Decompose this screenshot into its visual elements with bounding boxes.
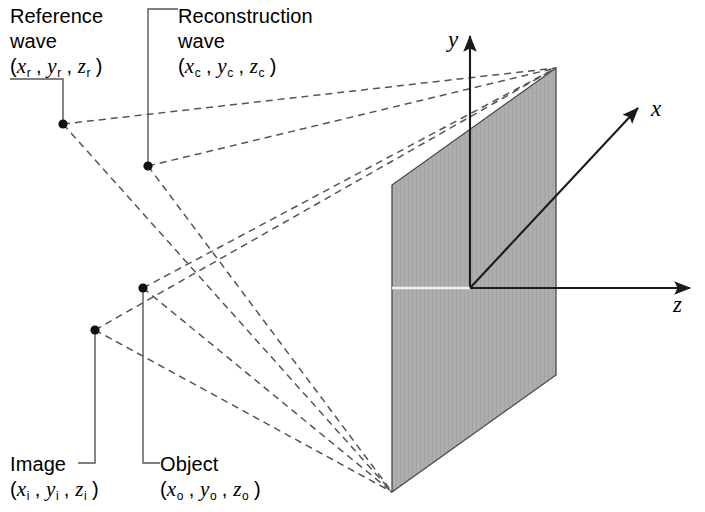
axis-label-y: y — [448, 27, 458, 53]
coord-y-sub: c — [227, 66, 233, 80]
label-image-line1: Image — [10, 452, 99, 477]
leader-reconstruction — [148, 9, 178, 166]
coord-x-sub: r — [27, 66, 31, 80]
paren-close: ) — [270, 55, 277, 77]
label-reference-coords: (xr , yr , zr ) — [10, 54, 103, 82]
coord-x: x — [17, 54, 26, 78]
ray-reconstruction-bottom — [148, 166, 392, 492]
coord-z-sub: r — [87, 66, 91, 80]
source-point-reconstruction — [143, 161, 152, 170]
source-point-image — [90, 325, 99, 334]
label-object-coords: (xo , yo , zo ) — [160, 477, 261, 505]
label-image: Image (xi , yi , zi ) — [10, 452, 99, 505]
coord-x: x — [17, 477, 26, 501]
paren-open: ( — [10, 55, 17, 77]
label-reconstruction-coords: (xc , yc , zc ) — [178, 54, 313, 82]
paren-open: ( — [178, 55, 185, 77]
coord-y-sub: r — [57, 66, 61, 80]
coord-z: z — [75, 477, 83, 501]
coord-x: x — [185, 54, 194, 78]
coord-y: y — [200, 477, 209, 501]
coord-x-sub: o — [177, 489, 184, 503]
coord-z-sub: i — [84, 489, 87, 503]
coord-y: y — [47, 54, 56, 78]
leader-reference — [10, 79, 63, 124]
coord-y-sub: i — [56, 489, 59, 503]
label-reference-line1: Reference — [10, 4, 103, 29]
diagram-canvas — [0, 0, 705, 512]
label-object: Object (xo , yo , zo ) — [160, 452, 261, 505]
source-point-object — [138, 283, 147, 292]
paren-close: ) — [92, 478, 99, 500]
label-image-coords: (xi , yi , zi ) — [10, 477, 99, 505]
source-point-reference — [58, 119, 67, 128]
holography-diagram: Reference wave (xr , yr , zr ) Reconstru… — [0, 0, 705, 512]
coord-z-sub: c — [259, 66, 265, 80]
leader-image — [78, 330, 95, 463]
coord-y: y — [217, 54, 226, 78]
coord-x-sub: i — [27, 489, 30, 503]
hologram-plate — [392, 68, 556, 492]
label-reconstruction-line1: Reconstruction — [178, 4, 313, 29]
axis-label-z: z — [673, 292, 682, 318]
coord-z: z — [250, 54, 258, 78]
coord-x-sub: c — [195, 66, 201, 80]
coord-y-sub: o — [210, 489, 217, 503]
paren-close: ) — [254, 478, 261, 500]
axis-label-x: x — [651, 96, 661, 122]
label-object-line1: Object — [160, 452, 261, 477]
paren-open: ( — [10, 478, 17, 500]
coord-z: z — [233, 477, 241, 501]
coord-x: x — [167, 477, 176, 501]
coord-z: z — [78, 54, 86, 78]
label-reconstruction-wave: Reconstruction wave (xc , yc , zc ) — [178, 4, 313, 82]
paren-open: ( — [160, 478, 167, 500]
label-reconstruction-line2: wave — [178, 29, 313, 54]
coord-z-sub: o — [242, 489, 249, 503]
label-reference-wave: Reference wave (xr , yr , zr ) — [10, 4, 103, 82]
leader-object — [143, 288, 160, 463]
coord-y: y — [46, 477, 55, 501]
paren-close: ) — [96, 55, 103, 77]
label-reference-line2: wave — [10, 29, 103, 54]
ray-reference-bottom — [63, 124, 392, 492]
